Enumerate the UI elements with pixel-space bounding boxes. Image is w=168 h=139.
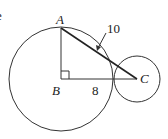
partial-text: e [0,8,2,23]
point-label-a: A [55,12,64,27]
length-label-ac: 10 [107,21,120,36]
segment-ac [61,28,137,79]
length-pointer-line [98,33,106,48]
length-label-bc: 8 [92,83,99,98]
point-label-b: B [52,83,60,98]
point-label-c: C [140,71,149,86]
length-pointer-arrowhead [96,45,101,51]
geometry-diagram: A B C 8 10 e [0,0,168,139]
right-angle-marker [61,71,69,79]
